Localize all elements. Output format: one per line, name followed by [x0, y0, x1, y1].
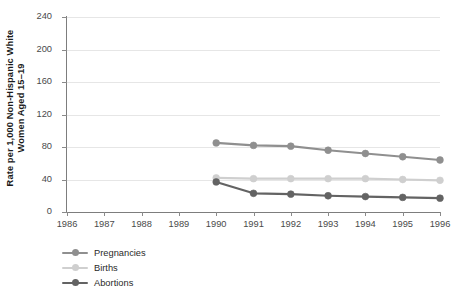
x-tick-label: 1991	[234, 219, 274, 229]
y-tick-label: 200	[0, 44, 52, 54]
y-tick-label: 160	[0, 76, 52, 86]
x-tick-mark	[254, 212, 255, 216]
x-tick-label: 1989	[159, 219, 199, 229]
x-tick-label: 1988	[122, 219, 162, 229]
legend-item-pregnancies[interactable]: Pregnancies	[62, 246, 146, 260]
x-tick-mark	[328, 212, 329, 216]
x-tick-label: 1994	[345, 219, 385, 229]
y-tick-label: 240	[0, 11, 52, 21]
data-point	[287, 175, 294, 182]
data-point	[399, 194, 406, 201]
data-point	[250, 190, 257, 197]
x-tick-mark	[179, 212, 180, 216]
data-point	[437, 195, 444, 202]
x-tick-label: 1995	[383, 219, 423, 229]
data-point	[213, 140, 220, 147]
x-tick-mark	[216, 212, 217, 216]
data-point	[362, 175, 369, 182]
data-point	[287, 143, 294, 150]
chart-container: Rate per 1,000 Non-Hispanic White Women …	[0, 0, 452, 296]
legend-marker-icon	[62, 262, 88, 274]
data-point	[287, 191, 294, 198]
x-tick-mark	[365, 212, 366, 216]
data-point	[399, 176, 406, 183]
x-tick-mark	[403, 212, 404, 216]
legend-item-abortions[interactable]: Abortions	[62, 276, 146, 290]
x-tick-label: 1992	[271, 219, 311, 229]
x-tick-mark	[104, 212, 105, 216]
data-point	[437, 177, 444, 184]
x-tick-label: 1996	[420, 219, 452, 229]
legend-label: Abortions	[94, 278, 133, 288]
series-births	[213, 174, 444, 183]
data-point	[325, 175, 332, 182]
x-tick-mark	[67, 212, 68, 216]
data-point	[213, 179, 220, 186]
legend-marker-icon	[62, 277, 88, 289]
legend-marker-icon	[62, 247, 88, 259]
y-tick-label: 0	[0, 206, 52, 216]
x-tick-mark	[440, 212, 441, 216]
x-tick-label: 1990	[196, 219, 236, 229]
x-tick-label: 1986	[47, 219, 87, 229]
x-tick-mark	[291, 212, 292, 216]
x-tick-label: 1993	[308, 219, 348, 229]
series-pregnancies	[213, 140, 444, 164]
data-point	[250, 175, 257, 182]
y-tick-label: 120	[0, 109, 52, 119]
data-point	[399, 153, 406, 160]
data-point	[325, 192, 332, 199]
x-tick-mark	[142, 212, 143, 216]
x-tick-label: 1987	[84, 219, 124, 229]
y-tick-label: 40	[0, 174, 52, 184]
data-point	[250, 142, 257, 149]
legend-label: Pregnancies	[94, 248, 146, 258]
data-point	[362, 150, 369, 157]
data-point	[362, 193, 369, 200]
chart-legend: PregnanciesBirthsAbortions	[62, 246, 146, 291]
legend-label: Births	[94, 263, 118, 273]
data-point	[325, 147, 332, 154]
data-point	[437, 157, 444, 164]
legend-item-births[interactable]: Births	[62, 261, 146, 275]
data-series-layer	[67, 17, 440, 212]
y-tick-label: 80	[0, 141, 52, 151]
